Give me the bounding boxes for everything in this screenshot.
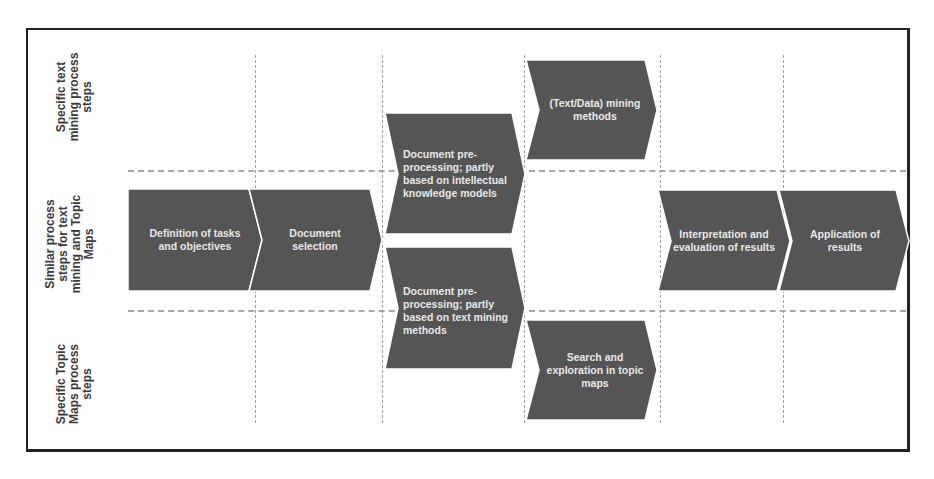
step-interpretation: Interpretation and evaluation of results bbox=[672, 190, 776, 291]
step-preproc-knowledge: Document pre-processing; partly based on… bbox=[403, 113, 515, 234]
step-preproc-textmining: Document pre-processing; partly based on… bbox=[403, 250, 515, 371]
step-search-exploration: Search and exploration in topic maps bbox=[542, 320, 648, 420]
step-application: Application of results bbox=[797, 190, 893, 291]
step-mining-methods: (Text/Data) mining methods bbox=[545, 60, 645, 160]
step-selection: Document selection bbox=[275, 189, 355, 291]
step-definition: Definition of tasks and objectives bbox=[140, 189, 250, 291]
